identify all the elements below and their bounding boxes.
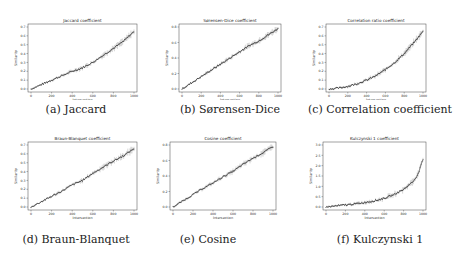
subplot-5: Cosine coefficient0.00.20.40.60.80200400… (153, 130, 306, 230)
x-axis-label: Intersection (364, 216, 384, 220)
svg-text:0.3: 0.3 (20, 61, 25, 65)
svg-text:0.0: 0.0 (20, 87, 25, 91)
subplot-caption: (c) Correlation coefficient (300, 103, 459, 116)
y-axis-label: Similarity (14, 50, 18, 66)
svg-text:0.4: 0.4 (171, 56, 176, 60)
svg-text:0.3: 0.3 (318, 61, 323, 65)
svg-text:0.1: 0.1 (318, 78, 323, 82)
x-axis-label: Intersection (72, 216, 92, 220)
svg-text:0: 0 (325, 212, 327, 216)
svg-text:0.3: 0.3 (20, 179, 25, 183)
svg-text:0.2: 0.2 (162, 190, 167, 194)
subplot-caption: (b) Sørensen-Dice (150, 103, 310, 116)
subplot-title: Correlation ratio coefficient (347, 18, 405, 23)
subplot-title: Braun-Blanquet coefficient (55, 136, 111, 141)
svg-text:1.0: 1.0 (315, 185, 320, 189)
subplot-3: Correlation ratio coefficient0.00.10.20.… (306, 0, 459, 100)
svg-text:200: 200 (342, 212, 348, 216)
svg-text:0.6: 0.6 (20, 152, 25, 156)
svg-text:0.4: 0.4 (20, 170, 25, 174)
svg-text:0.5: 0.5 (20, 161, 25, 165)
y-axis-label: Similarity (312, 50, 316, 66)
svg-text:800: 800 (110, 94, 116, 98)
y-axis-label: Similarity (156, 168, 160, 184)
svg-text:0.5: 0.5 (20, 43, 25, 47)
svg-text:0.7: 0.7 (20, 143, 25, 147)
svg-text:1000: 1000 (269, 212, 277, 216)
svg-text:0: 0 (172, 212, 174, 216)
svg-text:0: 0 (328, 94, 330, 98)
svg-text:200: 200 (345, 94, 351, 98)
svg-text:200: 200 (49, 94, 55, 98)
y-axis-label: Similarity (309, 168, 313, 184)
svg-text:0.5: 0.5 (315, 195, 320, 199)
svg-text:1000: 1000 (419, 212, 427, 216)
svg-text:800: 800 (401, 212, 407, 216)
svg-text:1000: 1000 (419, 94, 427, 98)
svg-text:1.5: 1.5 (315, 174, 320, 178)
subplot-title: Cosine coefficient (204, 136, 242, 141)
x-axis-label: Intersection (366, 98, 386, 100)
svg-text:200: 200 (190, 212, 196, 216)
svg-text:2.5: 2.5 (315, 154, 320, 158)
svg-text:0.8: 0.8 (171, 25, 176, 29)
svg-text:0.2: 0.2 (20, 69, 25, 73)
svg-text:0: 0 (30, 212, 32, 216)
svg-text:3.0: 3.0 (315, 143, 320, 147)
svg-text:0.2: 0.2 (318, 69, 323, 73)
svg-text:800: 800 (401, 94, 407, 98)
subplot-caption: (f) Kulczynski 1 (300, 233, 459, 246)
svg-text:800: 800 (256, 94, 262, 98)
svg-text:0.7: 0.7 (318, 25, 323, 29)
y-axis-label: Similarity (165, 50, 169, 66)
x-axis-label: Intersection (220, 98, 240, 100)
x-axis-label: Intersection (213, 216, 233, 220)
svg-text:0.4: 0.4 (162, 174, 167, 178)
svg-text:800: 800 (250, 212, 256, 216)
svg-text:0.8: 0.8 (162, 143, 167, 147)
subplot-title: Jaccard coefficient (62, 18, 102, 23)
svg-text:800: 800 (110, 212, 116, 216)
x-axis-label: Intersection (72, 98, 92, 100)
y-axis-label: Similarity (14, 168, 18, 184)
svg-text:0.0: 0.0 (162, 205, 167, 209)
svg-text:0.4: 0.4 (318, 52, 323, 56)
svg-text:0.6: 0.6 (162, 159, 167, 163)
svg-text:0: 0 (30, 94, 32, 98)
svg-text:0.0: 0.0 (315, 205, 320, 209)
svg-text:0.0: 0.0 (318, 87, 323, 91)
subplot-title: Kulczynski 1 coefficient (350, 136, 399, 141)
svg-text:0.2: 0.2 (171, 72, 176, 76)
subplot-1: Jaccard coefficient0.00.10.20.30.40.50.6… (0, 0, 153, 100)
svg-text:0.6: 0.6 (171, 41, 176, 45)
subplot-caption: (e) Cosine (128, 233, 288, 246)
svg-text:0.2: 0.2 (20, 187, 25, 191)
subplot-caption: (a) Jaccard (0, 103, 156, 116)
subplot-2: Sørensen-Dice coefficient0.00.20.40.60.8… (153, 0, 306, 100)
svg-text:0.1: 0.1 (20, 196, 25, 200)
svg-text:0.6: 0.6 (20, 34, 25, 38)
svg-text:0.5: 0.5 (318, 43, 323, 47)
svg-text:0.0: 0.0 (20, 205, 25, 209)
svg-text:0.7: 0.7 (20, 25, 25, 29)
svg-text:1000: 1000 (130, 94, 138, 98)
svg-text:0.6: 0.6 (318, 34, 323, 38)
svg-text:2.0: 2.0 (315, 164, 320, 168)
svg-text:0: 0 (181, 94, 183, 98)
subplot-6: Kulczynski 1 coefficient0.00.51.01.52.02… (306, 130, 459, 230)
svg-text:1000: 1000 (130, 212, 138, 216)
svg-text:0.1: 0.1 (20, 78, 25, 82)
svg-text:0.4: 0.4 (20, 52, 25, 56)
subplot-title: Sørensen-Dice coefficient (203, 18, 257, 23)
svg-text:1000: 1000 (274, 94, 282, 98)
subplot-4: Braun-Blanquet coefficient0.00.10.20.30.… (0, 130, 153, 230)
svg-text:200: 200 (198, 94, 204, 98)
svg-text:200: 200 (49, 212, 55, 216)
svg-text:0.0: 0.0 (171, 87, 176, 91)
